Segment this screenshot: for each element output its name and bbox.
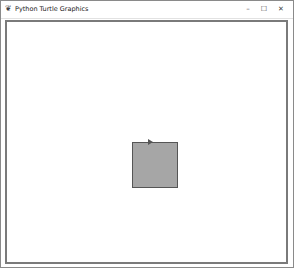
window-title: Python Turtle Graphics <box>15 4 89 14</box>
turtle-arrow-icon <box>148 139 153 145</box>
close-button[interactable]: ✕ <box>274 3 288 15</box>
maximize-button[interactable]: ☐ <box>257 3 271 15</box>
feather-icon: ❦ <box>5 4 13 14</box>
caption <box>0 270 301 280</box>
drawn-square <box>132 142 178 188</box>
minimize-button[interactable]: – <box>241 3 255 15</box>
title-bar[interactable]: ❦ Python Turtle Graphics – ☐ ✕ <box>1 1 293 19</box>
turtle-window: ❦ Python Turtle Graphics – ☐ ✕ <box>0 0 294 268</box>
